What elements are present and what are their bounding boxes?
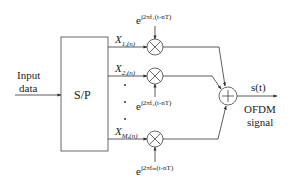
- adder: [219, 87, 237, 105]
- carrier-1-label: ej2πf₁(t-nT): [136, 14, 171, 26]
- input-label-line1: Input: [17, 70, 40, 81]
- output-label-line2: signal: [247, 117, 273, 128]
- sum-path-2: [163, 76, 221, 89]
- xm-symbol: XM,(n): [115, 126, 137, 140]
- output-signal-label: s(t): [251, 82, 266, 93]
- x2-symbol: X2,(n): [115, 63, 135, 77]
- output-label-line1: OFDM: [244, 104, 276, 115]
- input-label-line2: data: [19, 83, 37, 94]
- ellipsis-dot: [124, 118, 126, 120]
- multiplier-m: [147, 131, 163, 147]
- x1-symbol: X1,(n): [115, 34, 135, 48]
- ellipsis-dot: [124, 84, 126, 86]
- sum-path-m: [163, 106, 226, 139]
- multiplier-1: [147, 39, 163, 55]
- carrier-2-label: ej2πf₂(t-nT): [136, 100, 171, 112]
- multiplier-2: [147, 68, 163, 84]
- ellipsis-dot: [124, 101, 126, 103]
- carrier-m-label: ej2πfₘ(t-nT): [136, 165, 173, 177]
- ofdm-block-diagram: [0, 0, 296, 191]
- sp-label: S/P: [74, 89, 91, 101]
- sum-path-1: [163, 47, 225, 86]
